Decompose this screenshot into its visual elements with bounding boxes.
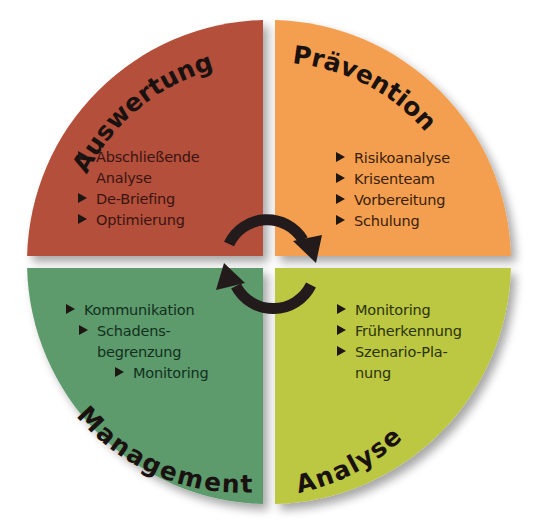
list-item: Monitoring <box>337 300 431 321</box>
bullet-triangle-icon <box>78 214 87 224</box>
bullet-triangle-icon <box>336 194 345 204</box>
list-item: Analyse <box>96 168 152 189</box>
crisis-cycle-diagram: Auswertung Prävention Management Analyse <box>0 0 540 522</box>
bullet-triangle-icon <box>337 304 346 314</box>
list-item: Risikoanalyse <box>336 148 450 169</box>
list-item: De-Briefing <box>78 189 175 210</box>
list-item: Szenario-Pla- <box>337 342 447 363</box>
list-item: Krisenteam <box>336 169 435 190</box>
list-item: Abschließende <box>78 147 200 168</box>
cycle-arrows-icon <box>229 220 311 309</box>
bullet-triangle-icon <box>336 215 345 225</box>
bullet-triangle-icon <box>78 193 87 203</box>
list-item: Früherkennung <box>337 321 462 342</box>
bullet-triangle-icon <box>336 152 345 162</box>
bullet-triangle-icon <box>336 173 345 183</box>
bullet-triangle-icon <box>79 325 88 335</box>
list-item: Monitoring <box>115 363 209 384</box>
list-item: nung <box>355 363 391 384</box>
bullet-triangle-icon <box>337 346 346 356</box>
bullet-triangle-icon <box>78 151 87 161</box>
list-item: Schadens- <box>79 321 171 342</box>
list-item: Optimierung <box>78 210 185 231</box>
list-item: Vorbereitung <box>336 190 445 211</box>
list-item: Schulung <box>336 211 420 232</box>
list-item: begrenzung <box>97 342 181 363</box>
list-item: Kommunikation <box>66 300 195 321</box>
bullet-triangle-icon <box>115 367 124 377</box>
bullet-triangle-icon <box>66 304 75 314</box>
bullet-triangle-icon <box>337 325 346 335</box>
